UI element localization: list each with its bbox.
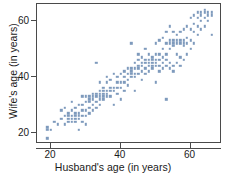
data-point	[182, 39, 184, 41]
data-point	[71, 118, 73, 120]
data-point	[102, 92, 104, 94]
data-point	[130, 70, 132, 72]
data-point	[179, 31, 181, 33]
data-point	[64, 115, 66, 117]
data-point	[158, 39, 160, 41]
data-point	[120, 87, 122, 89]
data-point	[71, 115, 73, 117]
data-point	[127, 73, 129, 75]
data-point	[147, 59, 149, 61]
data-point	[189, 39, 191, 41]
data-point	[85, 101, 87, 103]
data-point	[182, 45, 184, 47]
data-point	[137, 64, 139, 66]
data-point	[95, 62, 97, 64]
data-point	[109, 95, 111, 97]
x-tick-mark	[190, 143, 191, 148]
data-point	[81, 109, 83, 111]
data-point	[154, 64, 156, 66]
data-point	[71, 109, 73, 111]
data-point	[134, 76, 136, 78]
data-point	[210, 34, 212, 36]
y-axis-title: Wife's age (in years)	[7, 1, 19, 141]
data-point	[168, 25, 170, 27]
data-point	[113, 90, 115, 92]
x-axis-title: Husband's age (in years)	[0, 161, 226, 174]
data-point	[207, 11, 209, 13]
data-point	[130, 42, 132, 44]
data-point	[158, 53, 160, 55]
data-point	[109, 78, 111, 80]
data-point	[144, 62, 146, 64]
data-point	[99, 81, 101, 83]
data-point	[102, 87, 104, 89]
data-point	[182, 28, 184, 30]
data-point	[64, 123, 66, 125]
data-point	[92, 95, 94, 97]
y-tick-label: 60	[18, 14, 29, 25]
y-tick-mark	[31, 76, 36, 77]
data-point	[147, 70, 149, 72]
data-point	[102, 95, 104, 97]
data-point	[81, 95, 83, 97]
data-point	[116, 87, 118, 89]
data-point	[137, 53, 139, 55]
data-point	[106, 81, 108, 83]
data-point	[200, 11, 202, 13]
data-point	[151, 59, 153, 61]
data-point	[141, 64, 143, 66]
data-point	[175, 62, 177, 64]
data-point	[141, 78, 143, 80]
data-point	[203, 11, 205, 13]
data-point	[120, 81, 122, 83]
data-point	[200, 20, 202, 22]
data-point	[85, 109, 87, 111]
data-point	[67, 118, 69, 120]
data-point	[193, 14, 195, 16]
data-point	[78, 104, 80, 106]
data-point	[116, 92, 118, 94]
data-point	[158, 64, 160, 66]
data-point	[78, 115, 80, 117]
data-point	[147, 62, 149, 64]
data-point	[196, 25, 198, 27]
data-point	[130, 67, 132, 69]
data-point	[134, 67, 136, 69]
data-point	[179, 56, 181, 58]
data-point	[175, 53, 177, 55]
data-point	[161, 67, 163, 69]
data-point	[165, 59, 167, 61]
x-tick-label: 60	[184, 149, 195, 160]
data-point	[130, 76, 132, 78]
data-point	[95, 101, 97, 103]
data-point	[99, 90, 101, 92]
data-point	[60, 118, 62, 120]
data-point	[92, 92, 94, 94]
data-point	[172, 42, 174, 44]
data-point	[210, 14, 212, 16]
data-point	[161, 56, 163, 58]
data-point	[179, 42, 181, 44]
data-point	[57, 123, 59, 125]
data-point	[123, 76, 125, 78]
data-point	[120, 98, 122, 100]
data-point	[154, 53, 156, 55]
data-point	[95, 106, 97, 108]
data-point	[134, 73, 136, 75]
data-point	[141, 56, 143, 58]
data-point	[147, 64, 149, 66]
data-point	[109, 87, 111, 89]
data-point	[151, 64, 153, 66]
data-point	[168, 42, 170, 44]
data-point	[165, 98, 167, 100]
data-point	[168, 39, 170, 41]
data-point	[99, 92, 101, 94]
data-point	[161, 48, 163, 50]
data-point	[179, 39, 181, 41]
data-point	[203, 17, 205, 19]
data-point	[203, 25, 205, 27]
data-point	[74, 112, 76, 114]
data-point	[200, 28, 202, 30]
data-point	[137, 67, 139, 69]
data-point	[116, 76, 118, 78]
